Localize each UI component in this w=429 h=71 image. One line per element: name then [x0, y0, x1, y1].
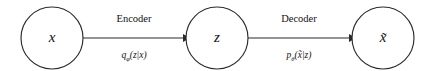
decoder-edge [248, 34, 356, 42]
encoder-edge [83, 34, 190, 42]
decoder-title-label: Decoder [281, 13, 317, 24]
decoder-formula-label: pθ(x̃|z) [286, 50, 312, 62]
encoder-title-label: Encoder [117, 13, 152, 24]
encoder-formula-label: qφ(z|x) [121, 50, 146, 62]
node-latent: z [186, 7, 248, 69]
decoder-formula-rest: (x̃|z) [295, 50, 312, 61]
node-reconstruction: x̃ [352, 7, 414, 69]
node-input: x [21, 7, 83, 69]
encoder-formula-rest: (z|x) [130, 50, 147, 61]
node-input-label: x [48, 29, 56, 45]
diagram-canvas: x z x̃ Encoder qφ(z|x) Decoder pθ(x̃|z) [0, 0, 429, 71]
node-latent-label: z [213, 29, 220, 45]
node-reconstruction-label: x̃ [379, 29, 387, 45]
vae-diagram: x z x̃ Encoder qφ(z|x) Decoder pθ(x̃|z) [0, 0, 429, 71]
